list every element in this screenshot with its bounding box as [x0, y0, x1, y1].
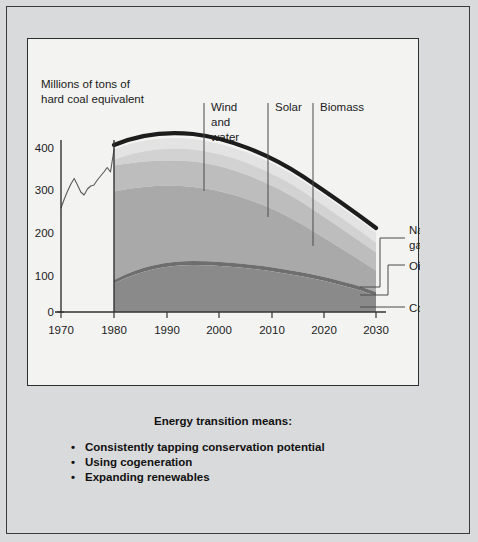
callout-oil: Oil: [409, 260, 420, 272]
bullet-dot-icon: •: [71, 455, 85, 470]
caption-block: Energy transition means: • Consistently …: [27, 415, 419, 485]
bullet-dot-icon: •: [71, 470, 85, 485]
x-tick-label-2000: 2000: [206, 324, 232, 336]
caption-bullet-text: Expanding renewables: [85, 470, 210, 485]
x-tick-label-2010: 2010: [259, 324, 285, 336]
chart-panel: Millions of tons of hard coal equivalent: [27, 38, 419, 386]
y-tick-label-100: 100: [35, 270, 54, 282]
caption-bullet-item: • Expanding renewables: [71, 470, 419, 485]
figure-page: Millions of tons of hard coal equivalent: [0, 0, 478, 542]
caption-heading: Energy transition means:: [27, 415, 419, 427]
x-tick-label-2030: 2030: [363, 324, 389, 336]
historical-energy-line: [61, 150, 114, 209]
annotation-wind-line3: water: [210, 131, 239, 143]
callout-coal: Coal: [409, 302, 420, 314]
y-tick-label-300: 300: [35, 184, 54, 196]
caption-bullet-text: Consistently tapping conservation potent…: [85, 440, 325, 455]
callout-natural-gas-line2: gas: [409, 239, 420, 251]
energy-transition-area-chart: 400 300 200 100 0 1970 1980 1990 2000 20…: [28, 39, 420, 387]
x-tick-label-1970: 1970: [48, 324, 74, 336]
x-tick-label-1990: 1990: [154, 324, 180, 336]
annotation-wind-and-water: Wind and water: [210, 101, 239, 143]
annotation-wind-line2: and: [211, 116, 230, 128]
annotation-biomass: Biomass: [320, 101, 364, 113]
bullet-dot-icon: •: [71, 440, 85, 455]
x-tick-label-1980: 1980: [101, 324, 127, 336]
y-tick-label-0: 0: [48, 306, 54, 318]
stacked-areas: [114, 138, 376, 312]
annotation-wind-line1: Wind: [211, 101, 237, 113]
caption-bullet-item: • Using cogeneration: [71, 455, 419, 470]
y-tick-label-400: 400: [35, 142, 54, 154]
y-tick-label-200: 200: [35, 227, 54, 239]
annotation-solar: Solar: [275, 101, 302, 113]
caption-bullet-text: Using cogeneration: [85, 455, 192, 470]
caption-bullet-item: • Consistently tapping conservation pote…: [71, 440, 419, 455]
callout-natural-gas-line1: Natural: [409, 224, 420, 236]
x-tick-label-2020: 2020: [311, 324, 337, 336]
